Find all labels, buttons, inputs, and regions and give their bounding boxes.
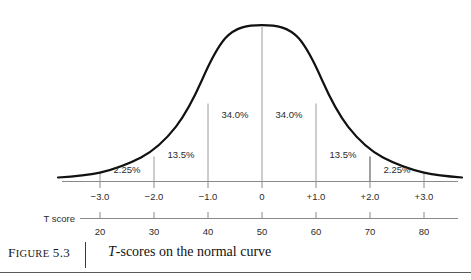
z-label-5: +2.0 <box>361 191 380 202</box>
figure-number-value: 5.3 <box>53 245 70 260</box>
z-label-2: −1.0 <box>199 191 218 202</box>
t-label-5: 70 <box>365 226 376 237</box>
z-label-6: +3.0 <box>415 191 434 202</box>
region-dividers <box>100 27 424 182</box>
figure-word-first: F <box>8 245 16 260</box>
t-label-6: 80 <box>419 226 430 237</box>
figure-page: 2.25% 13.5% 34.0% 34.0% 13.5% 2.25% −3.0… <box>0 0 471 280</box>
caption-italic-t: T <box>108 244 116 259</box>
figure-number: FIGURE 5.3 <box>8 245 70 261</box>
normal-distribution-curve <box>58 25 462 177</box>
z-label-3: 0 <box>259 191 264 202</box>
region-label-3: 34.0% <box>276 109 303 120</box>
region-label-2: 34.0% <box>222 109 249 120</box>
t-axis-ticks <box>100 212 424 219</box>
bottom-rule <box>0 272 471 273</box>
t-label-2: 40 <box>203 226 214 237</box>
caption-divider <box>85 242 86 268</box>
z-axis-ticks <box>100 182 424 189</box>
z-label-0: −3.0 <box>91 191 110 202</box>
region-label-1: 13.5% <box>168 149 195 160</box>
t-label-1: 30 <box>149 226 160 237</box>
region-label-5: 2.25% <box>384 164 411 175</box>
normal-curve-chart: 2.25% 13.5% 34.0% 34.0% 13.5% 2.25% −3.0… <box>0 0 471 240</box>
t-label-4: 60 <box>311 226 322 237</box>
figure-word-rest: IGURE <box>16 248 50 259</box>
figure-caption: FIGURE 5.3 T-scores on the normal curve <box>0 240 471 272</box>
z-label-1: −2.0 <box>145 191 164 202</box>
t-label-0: 20 <box>95 226 106 237</box>
caption-rest: -scores on the normal curve <box>116 244 272 259</box>
t-score-axis-label: T score <box>43 213 75 224</box>
region-label-0: 2.25% <box>114 164 141 175</box>
z-label-4: +1.0 <box>307 191 326 202</box>
figure-caption-text: T-scores on the normal curve <box>108 244 271 260</box>
t-label-3: 50 <box>257 226 268 237</box>
region-label-4: 13.5% <box>330 149 357 160</box>
